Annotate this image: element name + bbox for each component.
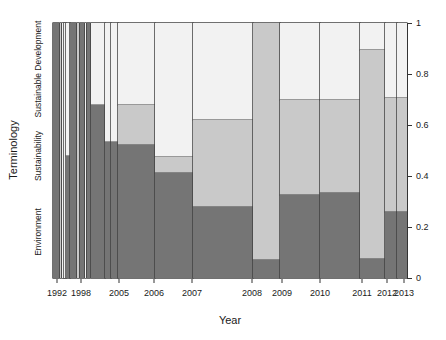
segment-environment xyxy=(70,23,76,278)
x-tick-label-2011: 2011 xyxy=(352,288,371,298)
segment-environment xyxy=(320,193,360,278)
y-tick xyxy=(407,176,412,177)
segment-environment xyxy=(397,212,407,278)
segment-sustainable_development xyxy=(155,23,193,157)
bar-2013 xyxy=(397,23,407,278)
y-tick xyxy=(407,23,412,24)
x-tick xyxy=(362,279,363,283)
segment-sustainable_development xyxy=(320,23,360,100)
x-tick-label-2006: 2006 xyxy=(144,288,164,298)
segment-environment xyxy=(118,145,155,278)
plot-area xyxy=(53,23,407,278)
bar-1996 xyxy=(66,23,69,278)
x-tick-label-1992: 1992 xyxy=(47,288,67,298)
x-tick-label-1998: 1998 xyxy=(71,288,91,298)
x-tick-label-2013: 2013 xyxy=(394,288,414,298)
x-axis-title: Year xyxy=(219,314,241,326)
segment-sustainable_development xyxy=(397,23,407,98)
y-tick xyxy=(407,125,412,126)
y-tick-label: 0.4 xyxy=(416,171,429,181)
bar-2009 xyxy=(280,23,320,278)
bar-2005 xyxy=(118,23,155,278)
segment-sustainability xyxy=(155,157,193,174)
bar-2002 xyxy=(91,23,106,278)
bar-1997 xyxy=(70,23,76,278)
bar-2004 xyxy=(111,23,118,278)
y-tick-label: 0.6 xyxy=(416,120,429,130)
x-tick-label-2009: 2009 xyxy=(272,288,292,298)
y-tick xyxy=(407,227,412,228)
segment-environment xyxy=(193,207,253,278)
y-tick-label: 0.2 xyxy=(416,222,429,232)
segment-sustainable_development xyxy=(385,23,397,98)
segment-sustainability xyxy=(360,50,385,259)
segment-environment xyxy=(385,212,397,278)
bar-2007 xyxy=(193,23,253,278)
segment-sustainable_development xyxy=(360,23,385,50)
segment-environment xyxy=(280,195,320,278)
x-tick xyxy=(153,279,154,283)
segment-environment xyxy=(360,259,385,278)
segment-sustainability xyxy=(253,23,280,260)
x-tick xyxy=(81,279,82,283)
x-tick xyxy=(319,279,320,283)
y-tick-label: 1 xyxy=(416,18,421,28)
segment-environment xyxy=(155,173,193,278)
spineplot-figure: 00.20.40.60.81 1992199820052006200720082… xyxy=(0,0,446,340)
segment-sustainability xyxy=(280,100,320,196)
segment-sustainable_development xyxy=(193,23,253,120)
x-tick-label-2010: 2010 xyxy=(310,288,330,298)
y-tick-label: 0.8 xyxy=(416,69,429,79)
y-tick xyxy=(407,74,412,75)
segment-sustainable_development xyxy=(280,23,320,100)
category-label-sustainability: Sustainability xyxy=(33,131,43,181)
segment-sustainable_development xyxy=(91,23,106,105)
segment-environment xyxy=(66,156,69,278)
bar-2012 xyxy=(385,23,397,278)
x-tick xyxy=(403,279,404,283)
y-axis-title: Terminology xyxy=(7,120,19,179)
bar-2010 xyxy=(320,23,360,278)
segment-environment xyxy=(91,105,106,278)
x-tick xyxy=(386,279,387,283)
y-tick-label: 0 xyxy=(416,273,421,283)
x-tick xyxy=(192,279,193,283)
x-tick xyxy=(118,279,119,283)
x-tick-label-2005: 2005 xyxy=(109,288,129,298)
x-tick-label-2007: 2007 xyxy=(182,288,202,298)
bar-2011 xyxy=(360,23,385,278)
bar-1992 xyxy=(53,23,59,278)
x-tick-label-2008: 2008 xyxy=(242,288,262,298)
segment-sustainability xyxy=(118,105,155,146)
segment-sustainability xyxy=(397,98,407,211)
segment-sustainability xyxy=(193,120,253,207)
y-tick xyxy=(407,278,412,279)
bar-2008 xyxy=(253,23,280,278)
y-axis-line xyxy=(407,23,408,279)
segment-sustainable_development xyxy=(118,23,155,105)
bar-2006 xyxy=(155,23,193,278)
segment-sustainable_development xyxy=(111,23,118,142)
x-tick xyxy=(251,279,252,283)
x-tick xyxy=(282,279,283,283)
x-tick xyxy=(57,279,58,283)
segment-sustainability xyxy=(320,100,360,193)
segment-environment xyxy=(111,142,118,278)
bar-1999 xyxy=(80,23,85,278)
segment-environment xyxy=(53,23,59,278)
segment-environment xyxy=(253,260,280,278)
category-label-environment: Environment xyxy=(33,208,43,256)
segment-sustainable_development xyxy=(66,23,69,156)
category-label-sustainable-development: Sustainable Development xyxy=(33,20,43,117)
segment-environment xyxy=(80,23,85,278)
segment-sustainability xyxy=(385,98,397,211)
